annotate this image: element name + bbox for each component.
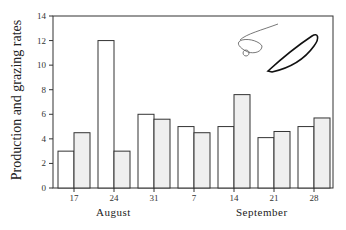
bar-production	[178, 127, 194, 188]
bar-chart: 024681012141724317142128	[0, 0, 346, 230]
bar-production	[58, 151, 74, 188]
bar-grazing	[154, 119, 170, 188]
y-tick-label: 0	[42, 183, 47, 193]
y-tick-label: 14	[37, 11, 47, 21]
diatom-drawing-icon	[268, 35, 318, 72]
y-tick-label: 10	[37, 60, 47, 70]
bar-production	[218, 127, 234, 188]
y-axis-label: Production and grazing rates	[9, 15, 25, 185]
x-tick-label: 24	[110, 193, 120, 203]
bar-grazing	[114, 151, 130, 188]
bar-grazing	[194, 133, 210, 188]
bar-grazing	[314, 118, 330, 188]
bar-grazing	[274, 131, 290, 188]
x-tick-label: 31	[150, 193, 159, 203]
bar-production	[138, 114, 154, 188]
y-tick-label: 4	[42, 134, 47, 144]
x-tick-label: 7	[192, 193, 197, 203]
bar-grazing	[234, 95, 250, 188]
bar-production	[298, 127, 314, 188]
zooplankter-drawing-icon	[238, 24, 278, 56]
x-tick-label: 17	[70, 193, 80, 203]
y-tick-label: 2	[42, 158, 47, 168]
x-tick-label: 21	[270, 193, 279, 203]
x-tick-label: 14	[230, 193, 240, 203]
y-tick-label: 12	[37, 36, 46, 46]
x-month-label-august: August	[96, 206, 131, 218]
y-tick-label: 6	[42, 109, 47, 119]
y-tick-label: 8	[42, 85, 47, 95]
bar-production	[258, 138, 274, 188]
x-tick-label: 28	[310, 193, 320, 203]
bar-grazing	[74, 133, 90, 188]
x-month-label-september: September	[236, 206, 288, 218]
bar-production	[98, 41, 114, 188]
